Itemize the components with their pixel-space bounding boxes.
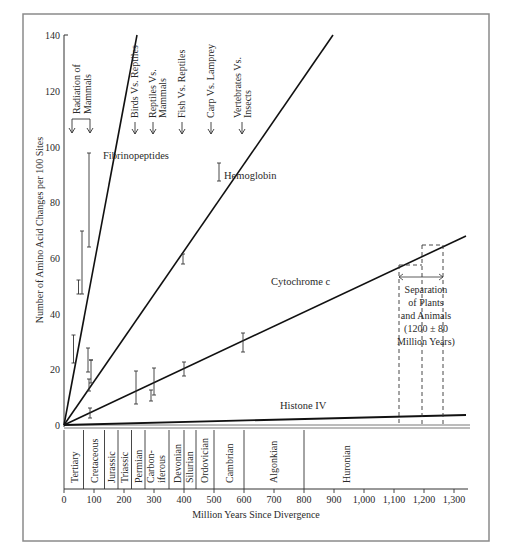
svg-text:300: 300 <box>147 494 162 505</box>
fibrinopeptides-label: Fibrinopeptides <box>103 150 169 161</box>
marker-reptiles-vs-mammals-2: Mammals <box>157 78 168 118</box>
y-tick-label: 140 <box>45 30 60 41</box>
svg-text:100: 100 <box>87 494 102 505</box>
plants-animals-separation <box>399 245 443 425</box>
svg-text:iferous: iferous <box>156 455 167 483</box>
svg-text:700: 700 <box>267 494 282 505</box>
molecular-clock-chart: 140 120 100 80 60 40 20 0 Number of Amin… <box>0 0 508 548</box>
svg-text:Tertiary: Tertiary <box>69 451 80 483</box>
marker-radiation-of-mammals-2: Mammals <box>82 74 93 114</box>
marker-fish-vs-reptiles: Fish Vs. Reptiles <box>176 49 187 118</box>
y-tick-label: 40 <box>50 309 60 320</box>
svg-text:Ordovician: Ordovician <box>199 438 210 483</box>
cytochrome-c-label: Cytochrome c <box>271 276 331 287</box>
svg-text:(1200 ± 80: (1200 ± 80 <box>404 323 448 335</box>
y-tick-label: 60 <box>50 253 60 264</box>
svg-text:500: 500 <box>207 494 222 505</box>
y-tick-label: 120 <box>45 86 60 97</box>
hemoglobin-label: Hemoglobin <box>224 170 277 181</box>
svg-text:Separation: Separation <box>405 284 448 295</box>
plants-animals-label: Separation of Plants and Animals (1200 ±… <box>397 284 455 348</box>
svg-text:Algonkian: Algonkian <box>268 441 279 483</box>
y-tick-label: 80 <box>50 197 60 208</box>
down-arrow-icon <box>132 122 245 134</box>
svg-text:Devonian: Devonian <box>172 444 183 483</box>
svg-text:Million Years): Million Years) <box>397 336 455 348</box>
error-bars <box>72 153 246 418</box>
marker-vertebrates-vs-insects-2: Insects <box>242 90 253 118</box>
svg-text:800: 800 <box>297 494 312 505</box>
histone-iv-label: Histone IV <box>280 400 327 411</box>
svg-text:1,200: 1,200 <box>413 494 436 505</box>
range-arrow <box>399 274 443 280</box>
svg-text:400: 400 <box>177 494 192 505</box>
divergence-markers: Radiation of Mammals Birds Vs. Reptiles … <box>69 44 253 134</box>
y-tick-label: 0 <box>55 420 60 431</box>
y-axis-label: Number of Amino Acid Changes per 100 Sit… <box>34 137 45 323</box>
svg-text:1,000: 1,000 <box>353 494 376 505</box>
marker-birds-vs-reptiles: Birds Vs. Reptiles <box>129 45 140 118</box>
marker-radiation-of-mammals: Radiation of <box>71 64 82 114</box>
svg-text:Permian: Permian <box>133 450 144 483</box>
svg-text:900: 900 <box>327 494 342 505</box>
svg-text:Silurian: Silurian <box>184 451 195 483</box>
svg-text:Cretaceous: Cretaceous <box>89 438 100 483</box>
y-ticks: 140 120 100 80 60 40 20 0 <box>45 30 68 431</box>
period-labels: Tertiary Cretaceous Jurassic Triassic Pe… <box>69 438 352 483</box>
svg-text:600: 600 <box>237 494 252 505</box>
y-tick-label: 20 <box>50 364 60 375</box>
svg-text:0: 0 <box>62 494 67 505</box>
svg-text:Jurassic: Jurassic <box>106 451 117 483</box>
svg-text:and Animals: and Animals <box>401 310 451 321</box>
marker-carp-vs-lamprey: Carp Vs. Lamprey <box>205 44 216 118</box>
svg-text:Carbon-: Carbon- <box>145 450 156 483</box>
svg-text:of Plants: of Plants <box>408 297 443 308</box>
svg-text:Triassic: Triassic <box>119 451 130 483</box>
svg-text:1,100: 1,100 <box>383 494 406 505</box>
histone-iv-line <box>64 415 466 425</box>
x-axis-label: Million Years Since Divergence <box>192 509 320 520</box>
svg-text:200: 200 <box>117 494 132 505</box>
x-tick-labels: 0 100 200 300 400 500 600 700 800 900 1,… <box>62 494 466 505</box>
hemoglobin-line <box>64 35 333 425</box>
y-tick-label: 100 <box>45 142 60 153</box>
svg-text:Cambrian: Cambrian <box>224 444 235 483</box>
x-ticks <box>64 489 454 493</box>
svg-text:Huronian: Huronian <box>341 445 352 483</box>
svg-text:1,300: 1,300 <box>443 494 466 505</box>
